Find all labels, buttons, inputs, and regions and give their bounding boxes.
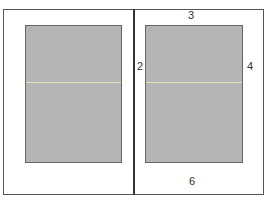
spine-divider — [133, 9, 135, 195]
inner-margin-label: 2 — [137, 61, 143, 72]
outer-margin-label: 4 — [247, 61, 253, 72]
left-page-text-block — [25, 25, 122, 163]
top-margin-label: 3 — [188, 10, 194, 21]
right-page-text-block — [145, 25, 243, 163]
left-page-guide-line — [26, 82, 121, 83]
right-page-guide-line — [146, 82, 242, 83]
bottom-margin-label: 6 — [189, 176, 195, 187]
